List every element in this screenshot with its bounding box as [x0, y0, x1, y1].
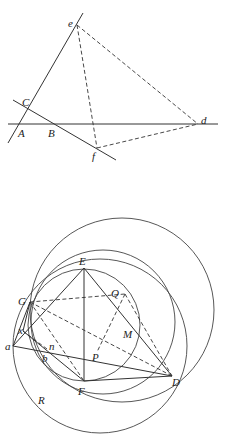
segment-f-d	[97, 124, 198, 148]
label-f: f	[92, 150, 97, 162]
segment-G-D	[30, 302, 172, 376]
label-Q: Q	[111, 287, 119, 299]
segment-x-F	[23, 331, 84, 381]
segment-e-f	[77, 25, 97, 148]
label-d: d	[201, 114, 207, 126]
label-D: D	[171, 376, 180, 388]
label-C: C	[22, 96, 30, 108]
bottom-figure: E G Q M x a n b P F D R	[5, 218, 214, 433]
segment-Q-P	[97, 294, 125, 352]
top-figure: e C A B d f	[8, 13, 218, 162]
segment-G-F	[30, 302, 84, 381]
segment-E-a	[13, 268, 84, 346]
label-F: F	[77, 385, 85, 397]
label-R: R	[37, 394, 45, 406]
label-e: e	[68, 17, 73, 29]
circle-R	[13, 259, 187, 433]
line-C-B-f	[13, 100, 116, 160]
label-b: b	[42, 352, 48, 364]
geometry-diagram: e C A B d f E G Q M x a n b	[0, 0, 230, 436]
segment-F-D	[84, 376, 172, 381]
label-E: E	[78, 255, 86, 267]
label-n: n	[49, 340, 55, 352]
segment-e-d	[77, 25, 198, 124]
label-M: M	[122, 328, 133, 340]
label-B: B	[48, 127, 55, 139]
label-A: A	[17, 127, 25, 139]
label-a: a	[5, 340, 11, 352]
label-P: P	[91, 351, 99, 363]
label-x: x	[17, 324, 23, 336]
label-G: G	[18, 295, 26, 307]
